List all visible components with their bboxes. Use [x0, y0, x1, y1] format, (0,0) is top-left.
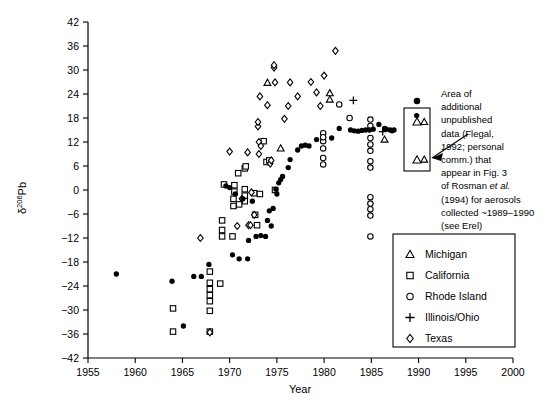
data-point — [368, 165, 373, 170]
data-point — [263, 234, 268, 239]
y-tick-label: −6 — [67, 208, 79, 220]
data-point — [265, 218, 270, 223]
y-tick-label: −24 — [61, 280, 79, 292]
x-tick-label: 1960 — [124, 366, 148, 378]
annotation-line: (1994) for aerosols — [441, 194, 521, 205]
scatter-plot: −42−36−30−24−18−12−606121824303642 19551… — [0, 0, 552, 410]
legend-marker-square-open — [407, 272, 413, 278]
data-point — [231, 196, 236, 201]
data-point — [235, 170, 240, 175]
data-point — [219, 227, 224, 232]
data-point — [320, 162, 325, 167]
data-point — [245, 149, 251, 156]
legend-label: Illinois/Ohio — [425, 311, 479, 323]
data-point — [257, 191, 262, 196]
data-point — [421, 118, 428, 124]
data-point — [269, 223, 274, 228]
annotation-text-italic: et al. — [490, 180, 511, 191]
data-point — [219, 234, 224, 239]
x-tick-label: 1970 — [218, 366, 242, 378]
data-point — [234, 223, 240, 230]
legend-label: California — [425, 269, 470, 281]
legend-marker-diamond-open — [407, 334, 414, 342]
data-point — [318, 103, 324, 110]
legend-marker-plus — [405, 313, 414, 322]
annotation-line: unpublished — [441, 114, 492, 125]
data-point — [218, 281, 223, 286]
data-point — [368, 213, 373, 218]
data-point — [320, 155, 325, 160]
legend-item-texas[interactable]: Texas — [407, 332, 453, 344]
data-point — [368, 135, 373, 140]
data-point — [230, 234, 235, 239]
data-point — [207, 292, 212, 297]
data-point — [256, 151, 262, 158]
y-tick-label: 24 — [67, 88, 79, 100]
data-point — [368, 158, 373, 163]
annotation-text-plain: of Rosman — [441, 180, 490, 191]
data-point — [170, 306, 175, 311]
series-texas — [198, 47, 339, 336]
data-point — [231, 203, 236, 208]
x-tick-label: 1955 — [76, 366, 100, 378]
data-point — [306, 143, 311, 148]
data-point — [371, 127, 376, 132]
y-tick-label: −36 — [61, 328, 79, 340]
data-point — [181, 323, 186, 328]
y-tick-label: −42 — [61, 352, 79, 364]
data-point — [321, 72, 327, 79]
data-point — [264, 79, 271, 85]
annotation-line: of Rosman et al. — [441, 180, 510, 191]
y-tick-label: 30 — [67, 64, 79, 76]
data-point — [381, 136, 388, 142]
y-tick-label: 0 — [73, 184, 79, 196]
legend-item-rhode-island[interactable]: Rhode Island — [407, 290, 487, 302]
y-axis-title-text: δ206Pb — [15, 182, 29, 214]
data-point — [285, 103, 291, 110]
data-point — [272, 79, 278, 86]
data-point — [368, 117, 373, 122]
legend-item-illinois-ohio[interactable]: Illinois/Ohio — [405, 311, 479, 323]
data-point — [250, 199, 255, 204]
data-point — [254, 222, 259, 227]
annotation-line: data (Flegal, — [441, 128, 494, 139]
data-point — [274, 191, 279, 196]
data-point — [280, 174, 285, 179]
data-point — [295, 147, 300, 152]
annotation-line: appear in Fig. 3 — [441, 167, 507, 178]
data-point — [246, 238, 251, 243]
y-axis-title-element: Pb — [16, 182, 28, 195]
data-point — [191, 274, 196, 279]
data-point — [326, 90, 333, 96]
data-point — [314, 89, 320, 96]
data-point — [207, 308, 212, 313]
data-point — [273, 187, 278, 192]
x-tick-label: 1985 — [360, 366, 384, 378]
data-point — [368, 206, 373, 211]
data-point — [219, 218, 224, 223]
data-point — [245, 256, 250, 261]
data-point — [253, 234, 258, 239]
data-point — [258, 233, 263, 238]
annotation-line: 1992; personal — [441, 141, 504, 152]
x-axis-title: Year — [289, 383, 312, 395]
data-point — [368, 234, 373, 239]
y-tick-label: 12 — [67, 136, 79, 148]
data-point — [295, 93, 301, 100]
data-point — [240, 196, 245, 201]
y-axis-title: δ206Pb — [15, 182, 29, 214]
data-point — [199, 274, 204, 279]
data-point — [333, 47, 339, 54]
legend-label: Michigan — [425, 248, 467, 260]
annotation-line: collected ~1989–1990 — [441, 207, 534, 218]
data-point — [236, 202, 241, 207]
data-point — [287, 79, 293, 86]
legend[interactable]: MichiganCaliforniaRhode IslandIllinois/O… — [393, 234, 515, 347]
data-point — [277, 145, 284, 151]
data-point — [207, 286, 212, 291]
x-tick-label: 1975 — [265, 366, 289, 378]
data-point — [257, 93, 263, 100]
legend-item-michigan[interactable]: Michigan — [406, 248, 467, 260]
legend-item-california[interactable]: California — [407, 269, 470, 281]
data-point — [233, 191, 238, 196]
